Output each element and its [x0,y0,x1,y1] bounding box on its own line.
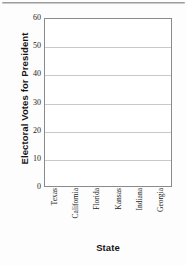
y-axis-tick-labels: 0102030405060 [0,18,41,187]
x-axis-tick-label: Florida [93,188,101,210]
x-axis-title: State [44,242,172,253]
y-axis-tick-label: 50 [1,42,41,50]
gridline [45,75,171,76]
gridline [45,47,171,48]
x-axis-tick-label: California [72,188,80,218]
y-axis-tick-label: 40 [1,70,41,78]
bar-chart: Electoral Votes for President 0102030405… [0,0,187,265]
x-axis-tick-label: Kansas [115,188,123,210]
plot-area [44,18,172,187]
x-axis-tick-label: Indiana [136,188,144,211]
x-axis-tick-label: Texas [51,188,59,205]
gridline [45,104,171,105]
x-axis-tick-labels: TexasCaliforniaFloridaKansasIndianaGeorg… [44,188,172,236]
chart-screenshot: Electoral Votes for President 0102030405… [0,0,187,265]
y-axis-tick-label: 10 [1,155,41,163]
gridline [45,160,171,161]
gridline [45,132,171,133]
y-axis-tick-label: 0 [1,183,41,191]
y-axis-tick-label: 60 [1,14,41,22]
y-axis-tick-label: 20 [1,127,41,135]
x-axis-tick-label: Georgia [157,188,165,212]
y-axis-tick-label: 30 [1,99,41,107]
